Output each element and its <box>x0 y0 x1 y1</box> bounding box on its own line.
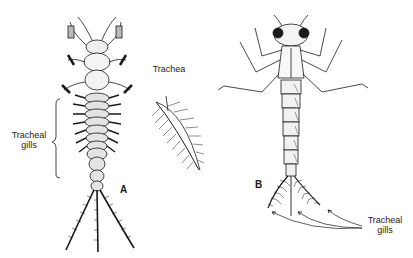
tracheal-gills-label-a: Tracheal gills <box>4 130 54 150</box>
gill-detail-drawing <box>152 96 204 170</box>
panel-letter-a: A <box>120 184 127 195</box>
tracheal-gills-label-b-line1: Tracheal <box>362 215 408 225</box>
illustration-svg <box>0 0 413 258</box>
panel-letter-b: B <box>255 179 262 190</box>
tracheal-gills-label-a-line1: Tracheal <box>4 130 54 140</box>
figure: Tracheal gills Trachea A B Tracheal gill… <box>0 0 413 258</box>
tracheal-gills-label-a-line2: gills <box>4 140 54 150</box>
trachea-label: Trachea <box>149 64 189 74</box>
tracheal-gills-label-b: Tracheal gills <box>362 215 408 235</box>
tracheal-gills-label-b-line2: gills <box>362 225 408 235</box>
damselfly-nymph-drawing <box>218 15 368 229</box>
mayfly-nymph-drawing <box>52 17 134 252</box>
